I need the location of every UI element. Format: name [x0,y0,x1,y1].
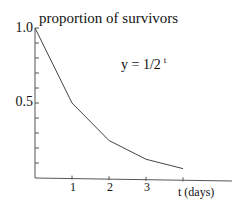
formula-base: y = 1/2 [121,57,161,72]
chart-title: proportion of survivors [39,10,178,27]
survival-curve [35,28,183,169]
y-tick-label-1: 1.0 [16,20,34,36]
x-tick-label-2: 2 [107,180,113,195]
formula-exponent: t [164,55,167,65]
x-tick-label-1: 1 [70,180,76,195]
y-ticks [35,28,39,163]
x-tick-label-3: 3 [144,180,150,195]
formula-annotation: y = 1/2t [121,55,166,73]
x-axis-label: t (days) [178,185,214,200]
y-tick-label-0-5: 0.5 [16,94,34,110]
x-axis [35,178,232,181]
